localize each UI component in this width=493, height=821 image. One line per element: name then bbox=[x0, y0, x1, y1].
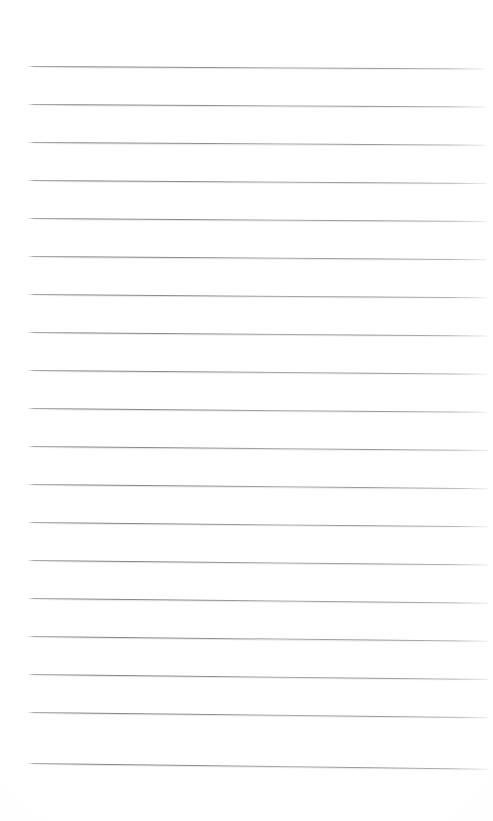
rule-line-blur bbox=[28, 219, 486, 224]
rule-line bbox=[28, 560, 488, 565]
rule-line-blur bbox=[28, 561, 488, 567]
rule-line bbox=[28, 370, 487, 375]
rule-line bbox=[28, 104, 485, 108]
rule-line bbox=[28, 408, 487, 413]
rule-line-blur bbox=[28, 181, 486, 185]
rule-line-blur bbox=[28, 523, 488, 529]
rule-line-blur bbox=[28, 371, 487, 376]
rule-line-stroke bbox=[28, 294, 487, 298]
rule-line-blur bbox=[28, 333, 487, 338]
rule-line-stroke bbox=[28, 598, 489, 604]
rule-line-stroke bbox=[28, 332, 487, 337]
rule-line bbox=[28, 218, 486, 222]
rule-line-stroke bbox=[28, 180, 486, 184]
rule-line bbox=[28, 484, 488, 489]
rule-line bbox=[28, 636, 489, 642]
rule-line-blur bbox=[28, 764, 489, 771]
rule-line bbox=[28, 180, 486, 184]
rule-line bbox=[28, 294, 487, 298]
rule-line-stroke bbox=[28, 446, 488, 451]
rule-line bbox=[28, 66, 484, 69]
rule-line-stroke bbox=[28, 408, 487, 413]
rule-line bbox=[28, 522, 488, 527]
rule-line-blur bbox=[28, 295, 487, 300]
rule-line-stroke bbox=[28, 674, 489, 680]
rule-line-stroke bbox=[28, 66, 484, 69]
rule-line-blur bbox=[28, 637, 489, 643]
rule-line-blur bbox=[28, 713, 489, 720]
rule-line-blur bbox=[28, 143, 485, 147]
rule-line bbox=[28, 142, 485, 146]
rule-line-stroke bbox=[28, 370, 487, 375]
rule-line-stroke bbox=[28, 256, 486, 260]
rule-line-blur bbox=[28, 675, 489, 682]
rule-line bbox=[28, 763, 489, 770]
rule-line bbox=[28, 598, 489, 604]
rule-line-stroke bbox=[28, 763, 489, 770]
rule-line bbox=[28, 712, 489, 718]
rule-line-blur bbox=[28, 599, 489, 605]
rule-line-blur bbox=[28, 485, 488, 491]
ruled-paper-page bbox=[0, 0, 493, 821]
rule-line-blur bbox=[28, 257, 486, 262]
rule-line-stroke bbox=[28, 522, 488, 527]
rule-line-stroke bbox=[28, 484, 488, 489]
rule-line-stroke bbox=[28, 142, 485, 146]
rule-line bbox=[28, 674, 489, 680]
rule-line-blur bbox=[28, 447, 488, 453]
rule-line-stroke bbox=[28, 636, 489, 642]
rule-line bbox=[28, 446, 488, 451]
rule-line bbox=[28, 256, 486, 260]
rule-line-stroke bbox=[28, 712, 489, 718]
rule-line-stroke bbox=[28, 104, 485, 108]
rule-line-stroke bbox=[28, 560, 488, 565]
rule-line-blur bbox=[28, 105, 485, 109]
rule-line-blur bbox=[28, 409, 487, 414]
rule-line bbox=[28, 332, 487, 337]
rule-line-stroke bbox=[28, 218, 486, 222]
paper-surface bbox=[0, 0, 493, 821]
rule-line-blur bbox=[28, 67, 484, 71]
